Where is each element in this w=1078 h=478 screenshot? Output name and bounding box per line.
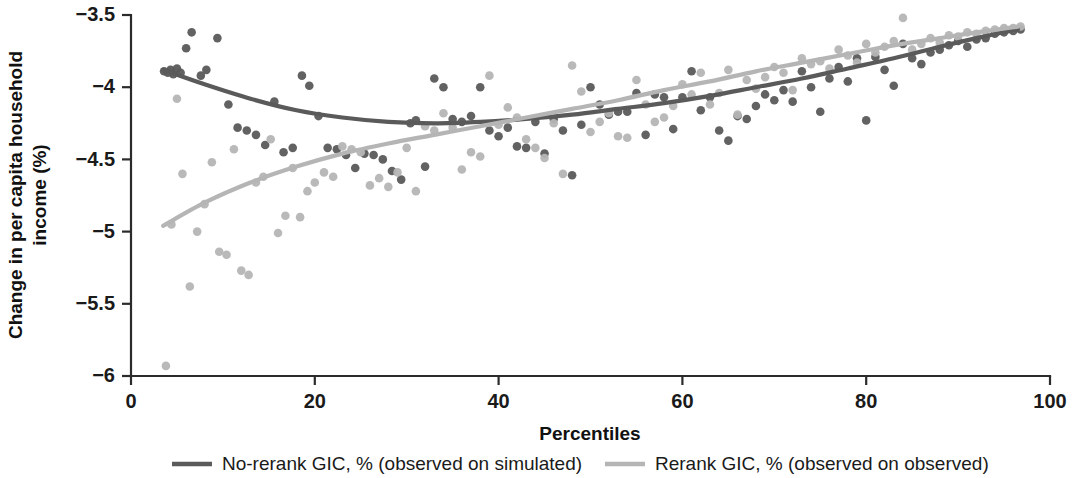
x-tick-label: 40 [487, 390, 509, 412]
scatter-point [788, 97, 797, 106]
legend-label-0: No-rerank GIC, % (observed on simulated) [222, 453, 582, 474]
legend-item-0: No-rerank GIC, % (observed on simulated) [172, 453, 582, 474]
scatter-point [788, 86, 797, 95]
x-tick-label: 20 [304, 390, 326, 412]
x-tick-label: 80 [855, 390, 877, 412]
scatter-point [770, 96, 779, 105]
scatter-point [375, 174, 384, 183]
y-tick-label: −5.5 [76, 292, 115, 314]
scatter-point [242, 126, 251, 135]
scatter-point [577, 87, 586, 96]
scatter-point [696, 68, 705, 77]
legend-item-1: Rerank GIC, % (observed on observed) [605, 453, 989, 474]
scatter-point [862, 40, 871, 49]
scatter-point [844, 77, 853, 86]
scatter-point [173, 94, 182, 103]
scatter-point [338, 142, 347, 151]
scatter-point [182, 44, 191, 53]
scatter-point [889, 81, 898, 90]
scatter-point [816, 107, 825, 116]
scatter-point [421, 162, 430, 171]
scatter-point [439, 83, 448, 92]
scatter-point [696, 106, 705, 115]
scatter-point [522, 144, 531, 153]
scatter-point [305, 81, 314, 90]
scatter-point [779, 68, 788, 77]
scatter-point [467, 112, 476, 121]
scatter-point [715, 126, 724, 135]
scatter-point [917, 60, 926, 69]
scatter-point [825, 74, 834, 83]
chart-figure: −6−5.5−5−4.5−4−3.5020406080100 Change in… [0, 0, 1078, 478]
scatter-point [752, 102, 761, 111]
scatter-point [632, 76, 641, 85]
scatter-point [724, 136, 733, 145]
scatter-point [485, 71, 494, 80]
scatter-point [320, 168, 329, 177]
scatter-point [779, 86, 788, 95]
scatter-point [641, 131, 650, 140]
scatter-point [252, 131, 261, 140]
scatter-point [244, 271, 253, 280]
scatter-point [369, 151, 378, 160]
scatter-point [329, 172, 338, 181]
scatter-point [230, 145, 239, 154]
scatter-point [660, 93, 669, 102]
scatter-point [393, 168, 402, 177]
scatter-point [412, 187, 421, 196]
scatter-point [311, 178, 320, 187]
fit-lines-layer [163, 27, 1018, 226]
scatter-point [660, 113, 669, 122]
scatter-point [568, 171, 577, 180]
x-tick-label: 60 [671, 390, 693, 412]
scatter-point [614, 132, 623, 141]
scatter-point [577, 120, 586, 129]
scatter-point [485, 126, 494, 135]
scatter-point [402, 144, 411, 153]
scatter-point [384, 183, 393, 192]
scatter-point [798, 67, 807, 76]
scatter-point [503, 103, 512, 112]
scatter-point [761, 73, 770, 82]
axis-spine [131, 15, 1050, 376]
legend-label-1: Rerank GIC, % (observed on observed) [655, 453, 989, 474]
scatter-point [503, 123, 512, 132]
scatter-point [379, 155, 388, 164]
scatter-point [222, 250, 231, 259]
scatter-point [761, 90, 770, 99]
scatter-point [494, 132, 503, 141]
scatter-point [208, 158, 217, 167]
x-axis-title: Percentiles [539, 423, 640, 444]
scatter-point [742, 76, 751, 85]
scatter-point [178, 170, 187, 179]
scatter-point [237, 266, 246, 275]
scatter-point [623, 133, 632, 142]
scatter-point [595, 118, 604, 127]
scatter-point [586, 128, 595, 137]
scatter-point [586, 83, 595, 92]
scatter-point [193, 227, 202, 236]
scatter-point [323, 144, 332, 153]
scatter-point [215, 248, 224, 257]
y-axis-title: Change in per capita household income (%… [5, 51, 50, 339]
fit-line-1 [163, 27, 1018, 226]
scatter-point [862, 116, 871, 125]
y-tick-label: −4 [92, 75, 116, 97]
scatter-point [880, 66, 889, 75]
scatter-point [559, 170, 568, 179]
scatter-point [288, 144, 297, 153]
scatter-point [963, 42, 972, 51]
scatter-points-layer [160, 14, 1025, 371]
scatter-point [430, 74, 439, 83]
scatter-point [834, 45, 843, 54]
scatter-point [467, 148, 476, 157]
y-axis-title-line1: Change in per capita household [5, 51, 26, 339]
scatter-point [187, 28, 196, 37]
scatter-point [651, 118, 660, 127]
scatter-point [540, 154, 549, 163]
scatter-point [162, 362, 171, 371]
y-tick-label: −6 [92, 364, 115, 386]
scatter-point [476, 83, 485, 92]
fit-line-0 [163, 29, 1018, 123]
scatter-point [549, 119, 558, 128]
